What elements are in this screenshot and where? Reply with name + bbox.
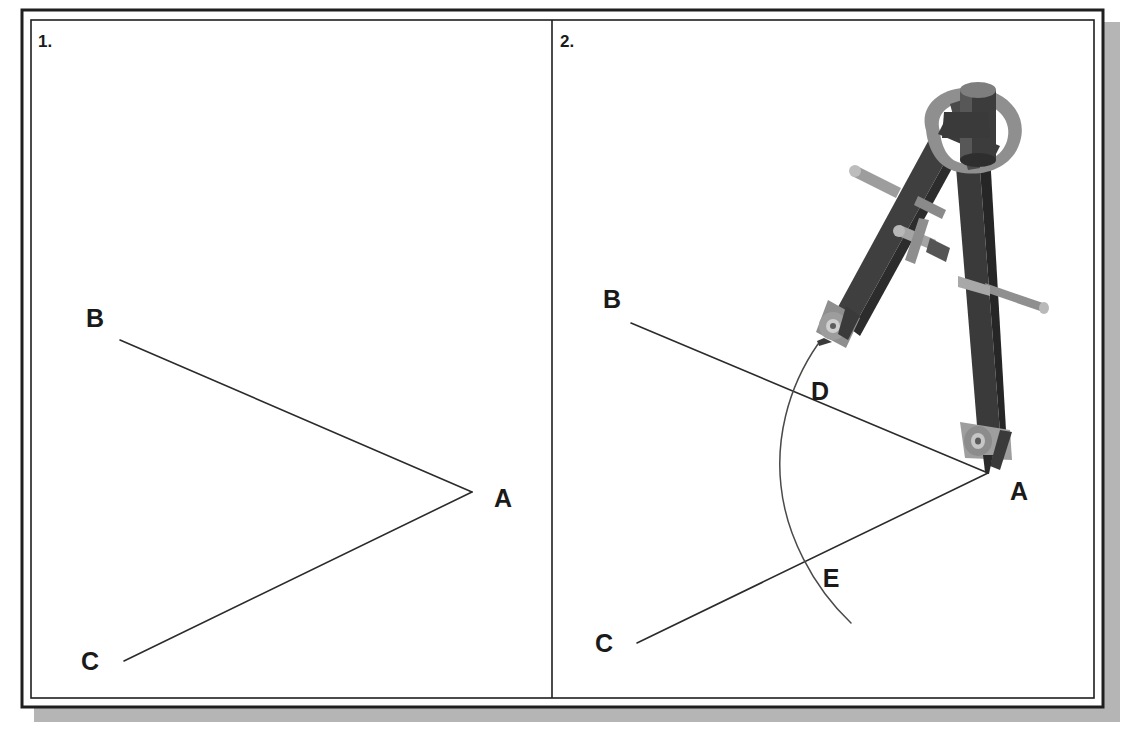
panel-1-number: 1. [38, 32, 52, 51]
panel-2-number: 2. [560, 32, 574, 51]
panel-1-label-A: A [494, 484, 512, 512]
construction-figure: 1. B A C 2. [0, 0, 1125, 732]
panel-2-label-B: B [603, 285, 621, 313]
panel-1-label-B: B [86, 304, 104, 332]
panel-2-label-E: E [823, 564, 840, 592]
panel-2-label-D: D [811, 377, 829, 405]
panel-2-label-C: C [595, 629, 613, 657]
figure-root: 1. B A C 2. [0, 0, 1125, 732]
panel-2-label-A: A [1010, 477, 1028, 505]
panel-1-label-C: C [81, 647, 99, 675]
